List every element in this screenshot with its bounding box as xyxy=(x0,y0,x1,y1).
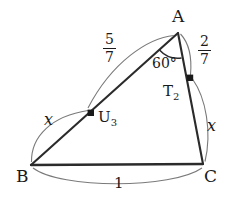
measure-label-a-u3-numerator: 5 xyxy=(103,32,116,47)
measure-label-a-u3-denominator: 7 xyxy=(103,50,116,65)
measure-arc-b-u3 xyxy=(31,111,88,163)
point-marker-t2 xyxy=(187,75,193,81)
measure-label-b-c: 1 xyxy=(114,176,124,191)
vertex-label-b: B xyxy=(16,168,29,185)
vertex-label-c: C xyxy=(204,168,217,185)
measure-label-a-t2-numerator: 2 xyxy=(198,34,211,49)
measure-label-a-t2-denominator: 7 xyxy=(198,52,211,67)
measure-label-b-u3: x xyxy=(44,112,53,128)
measure-arc-a-u3 xyxy=(88,36,174,109)
point-label-t2-subscript: 2 xyxy=(173,91,179,102)
point-label-u3: U3 xyxy=(98,110,117,125)
point-label-t2: T2 xyxy=(163,84,179,99)
point-label-u3-base: U xyxy=(98,108,111,126)
geometry-figure: A B C U3 T2 60° 5 7 2 7 x x 1 xyxy=(0,0,235,213)
measure-label-a-t2: 2 7 xyxy=(198,34,211,67)
measure-label-t2-c: x xyxy=(207,118,216,134)
point-marker-u3 xyxy=(88,110,94,116)
angle-label-a: 60° xyxy=(152,56,177,70)
point-label-t2-base: T xyxy=(163,82,173,100)
segment-bc-line xyxy=(31,164,203,165)
measure-label-a-u3: 5 7 xyxy=(103,32,116,65)
vertex-label-a: A xyxy=(172,8,184,25)
point-label-u3-subscript: 3 xyxy=(111,117,117,128)
